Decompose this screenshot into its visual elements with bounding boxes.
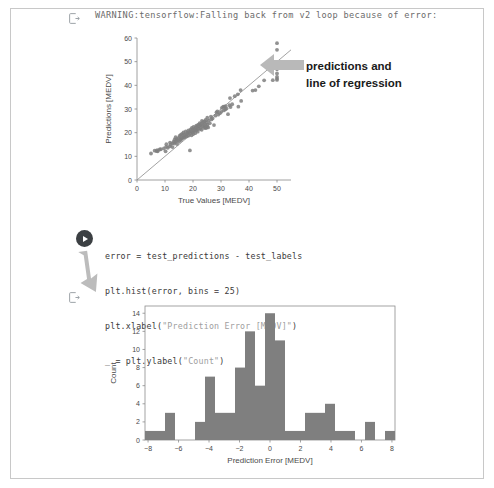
y-tick-label: 14 xyxy=(132,310,140,317)
histogram-bar xyxy=(275,340,285,440)
y-tick-label: 30 xyxy=(124,106,132,113)
x-tick-label: −6 xyxy=(175,445,183,452)
scatter-point xyxy=(208,121,212,125)
scatter-point xyxy=(275,41,279,45)
histogram-bar xyxy=(345,431,355,440)
histogram-bar xyxy=(325,404,335,440)
histogram-figure: 02468101214−8−6−4−202468Prediction Error… xyxy=(100,298,410,476)
scatter-point xyxy=(165,142,169,146)
annotation-label: predictions and line of regression xyxy=(306,58,466,91)
scatter-point xyxy=(257,84,261,88)
y-tick-label: 12 xyxy=(132,328,140,335)
histogram-bars xyxy=(145,313,395,440)
x-tick-label: 20 xyxy=(189,185,197,192)
scatter-point xyxy=(239,99,243,103)
x-tick-label: 8 xyxy=(390,445,394,452)
scatter-point xyxy=(228,96,232,100)
histogram-bar xyxy=(205,377,215,440)
histogram-bar xyxy=(335,431,345,440)
y-tick-label: 4 xyxy=(136,400,140,407)
x-tick-label: 0 xyxy=(135,185,139,192)
histogram-bar xyxy=(235,368,245,440)
scatter-point xyxy=(164,149,168,153)
code-line-2-text: plt.hist(error, bins = 25) xyxy=(105,286,240,296)
histogram-bar xyxy=(155,431,165,440)
x-tick-label: 40 xyxy=(245,185,253,192)
histogram-bar xyxy=(385,431,395,440)
x-tick-label: 0 xyxy=(268,445,272,452)
scatter-point xyxy=(188,149,192,153)
scatter-point xyxy=(239,88,243,92)
histogram-bar xyxy=(195,422,205,440)
scatter-point xyxy=(206,126,210,130)
y-tick-label: 8 xyxy=(136,364,140,371)
notebook-screenshot: WARNING:tensorflow:Falling back from v2 … xyxy=(0,0,494,488)
x-tick-label: 6 xyxy=(360,445,364,452)
histogram-bar xyxy=(145,431,155,440)
x-tick-label: 4 xyxy=(329,445,333,452)
down-right-arrow-annotation-icon xyxy=(77,248,111,294)
code-cell: error = test_predictions - test_labels p… xyxy=(76,226,376,288)
y-tick-label: 0 xyxy=(136,437,140,444)
code-line-2: plt.hist(error, bins = 25) xyxy=(105,286,302,298)
y-tick-label: 6 xyxy=(136,382,140,389)
play-button-icon[interactable] xyxy=(76,230,93,247)
scatter-point xyxy=(212,123,216,127)
y-axis-label: Count xyxy=(109,362,118,384)
histogram-bar xyxy=(225,413,235,440)
x-tick-label: −2 xyxy=(236,445,244,452)
x-axis-label: Prediction Error [MEDV] xyxy=(227,456,312,465)
histogram-bar xyxy=(365,422,375,440)
histogram-bar xyxy=(265,313,275,440)
scatter-point xyxy=(211,117,215,121)
code-line-1: error = test_predictions - test_labels xyxy=(105,251,302,263)
y-tick-label: 10 xyxy=(132,346,140,353)
scatter-point xyxy=(230,102,234,106)
y-tick-label: 0 xyxy=(128,177,132,184)
x-tick-label: 30 xyxy=(217,185,225,192)
histogram-bar xyxy=(215,413,225,440)
y-tick-label: 60 xyxy=(124,35,132,42)
annotation-line-2: line of regression xyxy=(306,75,466,92)
x-axis-label: True Values [MEDV] xyxy=(178,196,250,205)
play-triangle xyxy=(83,236,88,242)
warning-output-text: WARNING:tensorflow:Falling back from v2 … xyxy=(95,10,437,20)
annotation-line-1: predictions and xyxy=(306,58,466,75)
logs-output-icon-2[interactable] xyxy=(68,291,81,304)
scatter-point xyxy=(236,105,240,109)
y-axis-label: Predictions [MEDV] xyxy=(104,74,113,143)
scatter-point xyxy=(236,92,240,96)
x-tick-label: −4 xyxy=(205,445,213,452)
left-arrow-annotation-icon xyxy=(258,50,306,80)
scatter-point xyxy=(171,145,175,149)
histogram-bar xyxy=(245,331,255,440)
scatter-point xyxy=(226,112,230,116)
y-tick-label: 10 xyxy=(124,153,132,160)
y-tick-label: 50 xyxy=(124,58,132,65)
code-line-1-text: error = test_predictions - test_labels xyxy=(105,251,302,261)
x-tick-label: 50 xyxy=(273,185,281,192)
y-tick-label: 2 xyxy=(136,418,140,425)
histogram-bar xyxy=(255,386,265,440)
histogram-svg: 02468101214−8−6−4−202468Prediction Error… xyxy=(100,298,410,476)
histogram-bar xyxy=(315,413,325,440)
scatter-point xyxy=(225,107,229,111)
x-tick-label: −8 xyxy=(144,445,152,452)
logs-output-icon[interactable] xyxy=(68,12,81,25)
scatter-point xyxy=(149,152,153,156)
histogram-bar xyxy=(295,431,305,440)
scatter-point xyxy=(254,88,258,92)
y-tick-label: 20 xyxy=(124,129,132,136)
y-tick-label: 40 xyxy=(124,82,132,89)
histogram-bar xyxy=(165,413,175,440)
histogram-bar xyxy=(305,413,315,440)
histogram-bar xyxy=(285,431,295,440)
x-tick-label: 10 xyxy=(161,185,169,192)
x-tick-label: 2 xyxy=(299,445,303,452)
